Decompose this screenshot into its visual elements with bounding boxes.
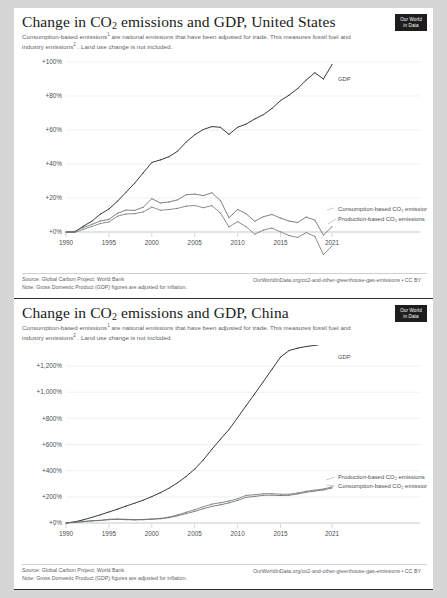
title-suffix: emissions and GDP, United States: [117, 13, 336, 30]
data-point: [91, 520, 92, 521]
line-chart-china: +0%+200%+400%+600%+800%+1,000%+1,200% 19…: [22, 345, 427, 550]
x-tick-label: 2021: [325, 239, 340, 246]
data-point: [117, 509, 118, 510]
data-point: [254, 393, 255, 394]
data-point: [160, 492, 161, 493]
leader-line: [326, 485, 335, 486]
data-point: [83, 227, 84, 228]
report-page: Change in CO2 emissions and GDP, United …: [14, 8, 433, 590]
title-suffix: emissions and GDP, China: [117, 304, 289, 321]
data-point: [323, 78, 324, 79]
data-point: [289, 221, 290, 222]
data-point: [83, 521, 84, 522]
data-point: [108, 511, 109, 512]
data-point: [91, 224, 92, 225]
data-point: [74, 522, 75, 523]
data-point: [186, 206, 187, 207]
data-point: [289, 495, 290, 496]
data-point: [306, 79, 307, 80]
data-point: [134, 183, 135, 184]
series-label-production: Production-based CO₂ emissions: [338, 216, 425, 222]
data-point: [186, 513, 187, 514]
data-point: [151, 519, 152, 520]
data-point: [280, 218, 281, 219]
data-point: [220, 212, 221, 213]
series-annotations-us: GDPConsumption-based CO₂ emissionsProduc…: [327, 76, 427, 224]
y-tick-label: +20%: [45, 194, 62, 201]
data-point: [228, 502, 229, 503]
data-point: [254, 221, 255, 222]
data-point: [91, 517, 92, 518]
series-label-gdp: GDP: [338, 76, 351, 82]
series-label-gdp: GDP: [338, 354, 351, 360]
series-line-production-based-co2-emissions: [66, 487, 332, 523]
chart-card-united-states: Change in CO2 emissions and GDP, United …: [14, 8, 433, 299]
data-point: [160, 210, 161, 211]
data-point: [100, 214, 101, 215]
data-point: [211, 506, 212, 507]
y-tick-label: +200%: [42, 493, 62, 500]
data-point: [228, 429, 229, 430]
data-point: [211, 192, 212, 193]
data-point: [151, 162, 152, 163]
series-line-consumption-based-co2-emissions: [66, 193, 332, 235]
owid-logo[interactable]: Our World in Data: [395, 14, 427, 31]
title-subscript: 2: [112, 311, 117, 322]
data-point: [74, 232, 75, 233]
attribution-link-us[interactable]: OurWorldInData.org/co2-and-other-greenho…: [253, 277, 421, 283]
attribution-link-cn[interactable]: OurWorldInData.org/co2-and-other-greenho…: [253, 568, 421, 574]
data-point: [246, 226, 247, 227]
data-point: [143, 211, 144, 212]
data-point: [271, 495, 272, 496]
x-tick-label: 2010: [231, 530, 246, 537]
data-point: [280, 100, 281, 101]
chart-subtitle-united-states: Consumption-based emissions1 are nationa…: [22, 32, 352, 52]
data-point: [289, 95, 290, 96]
y-tick-label: +100%: [42, 58, 62, 65]
x-axis-labels-cn: 1990199520002005201020152021: [59, 524, 340, 537]
data-point: [91, 226, 92, 227]
data-point: [323, 235, 324, 236]
data-point: [83, 226, 84, 227]
subtitle-part-3: . Land use change is not included.: [76, 43, 172, 50]
data-point: [246, 495, 247, 496]
owid-logo[interactable]: Our World in Data: [395, 305, 427, 322]
data-point: [126, 213, 127, 214]
y-tick-label: +0%: [49, 228, 62, 235]
leader-line: [328, 219, 336, 224]
data-point: [126, 192, 127, 193]
x-tick-label: 2000: [145, 239, 160, 246]
y-tick-label: +80%: [45, 92, 62, 99]
data-point: [186, 512, 187, 513]
x-tick-label: 2015: [273, 530, 288, 537]
data-point: [254, 496, 255, 497]
data-point: [177, 208, 178, 209]
data-point: [168, 201, 169, 202]
data-point: [228, 500, 229, 501]
data-point: [271, 369, 272, 370]
series-label-consumption: Consumption-based CO₂ emissions: [338, 206, 427, 212]
data-point: [117, 201, 118, 202]
series-label-production: Production-based CO₂ emissions: [338, 474, 425, 480]
data-point: [280, 231, 281, 232]
data-point: [74, 231, 75, 232]
data-point: [100, 220, 101, 221]
data-point: [117, 216, 118, 217]
data-point: [280, 495, 281, 496]
data-point: [100, 223, 101, 224]
x-tick-label: 2005: [188, 239, 203, 246]
data-point: [126, 506, 127, 507]
data-point: [143, 500, 144, 501]
series-line-gdp: [66, 345, 332, 523]
owid-logo-line-2: in Data: [395, 23, 427, 29]
data-point: [297, 88, 298, 89]
y-tick-label: +600%: [42, 441, 62, 448]
data-point: [297, 348, 298, 349]
title-prefix: Change in CO: [22, 13, 112, 30]
data-point: [263, 495, 264, 496]
data-point: [246, 124, 247, 125]
x-tick-label: 2010: [231, 239, 246, 246]
data-point: [331, 245, 332, 246]
data-point: [306, 491, 307, 492]
series-line-gdp: [66, 65, 332, 233]
